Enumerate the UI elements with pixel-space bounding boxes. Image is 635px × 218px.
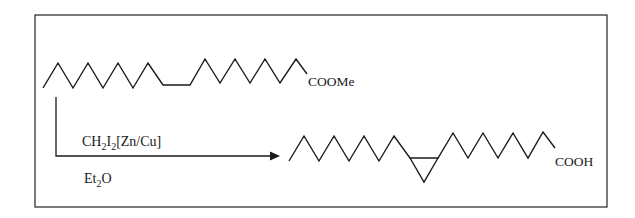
solvent-label: Et2O bbox=[84, 171, 112, 189]
diagram-border bbox=[35, 15, 607, 207]
cyclopropane-ring bbox=[410, 158, 438, 182]
reagent-label: CH2I2[Zn/Cu] bbox=[82, 134, 161, 152]
reactant-ester-label: COOMe bbox=[308, 74, 355, 89]
reaction-arrow bbox=[56, 97, 280, 161]
reaction-diagram: COOMe CH2I2[Zn/Cu] Et2O COOH bbox=[0, 0, 635, 218]
product-structure bbox=[289, 132, 555, 182]
arrowhead-icon bbox=[270, 152, 280, 161]
reactant-structure bbox=[43, 59, 307, 88]
product-acid-label: COOH bbox=[555, 154, 594, 169]
